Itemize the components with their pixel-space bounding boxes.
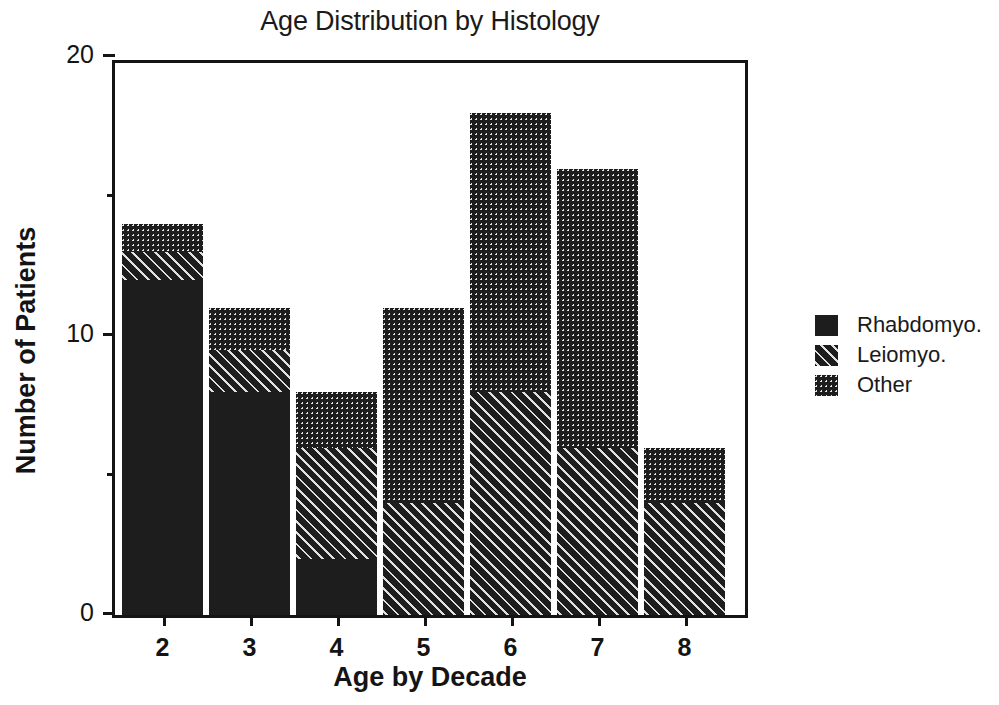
legend-item-label: Leiomyo.	[857, 344, 946, 366]
y-axis-tick: 0	[103, 612, 115, 615]
x-axis-tick-label: 4	[317, 635, 357, 660]
bar-segment	[644, 448, 725, 504]
chart-figure: Age Distribution by Histology Number of …	[0, 0, 999, 705]
bar-segment	[383, 503, 464, 615]
x-axis-tick	[685, 615, 688, 626]
bar-segment	[557, 169, 638, 448]
x-axis-tick	[598, 615, 601, 626]
bar-segment	[383, 308, 464, 503]
bar-segment	[644, 503, 725, 615]
bar-segment	[470, 113, 551, 392]
x-axis-tick-label: 8	[665, 635, 705, 660]
legend-item: Leiomyo.	[815, 340, 995, 370]
bar-group	[296, 392, 377, 615]
y-axis-tick: 10	[103, 333, 115, 336]
bar-segment	[296, 559, 377, 615]
x-axis-tick-label: 3	[230, 635, 270, 660]
y-axis-tick-label: 10	[66, 321, 94, 346]
bar-segment	[122, 224, 203, 252]
bar-group	[557, 169, 638, 615]
bar-segment	[557, 448, 638, 615]
bar-group	[209, 308, 290, 615]
bar-group	[644, 448, 725, 615]
bar-segment	[122, 252, 203, 280]
bar-segment	[296, 448, 377, 560]
x-axis-tick-label: 6	[491, 635, 531, 660]
legend-swatch-solid	[815, 315, 838, 336]
bar-group	[470, 113, 551, 615]
plot-area: 01020 2345678	[112, 60, 748, 618]
x-axis-title: Age by Decade	[112, 662, 748, 693]
bar-segment	[470, 392, 551, 615]
legend-swatch-dots	[815, 375, 838, 396]
y-axis-title: Number of Patients	[11, 186, 42, 516]
x-axis-tick	[424, 615, 427, 626]
legend-item: Other	[815, 370, 995, 400]
chart-legend: Rhabdomyo.Leiomyo.Other	[815, 310, 995, 400]
bar-series-container	[115, 63, 745, 615]
legend-swatch-hatch	[815, 345, 838, 366]
legend-item-label: Other	[857, 374, 912, 396]
x-axis-tick-label: 7	[578, 635, 618, 660]
bar-group	[383, 308, 464, 615]
y-axis-minor-tick	[107, 473, 115, 476]
x-axis-tick	[163, 615, 166, 626]
y-axis-minor-tick	[107, 194, 115, 197]
y-axis-tick-label: 20	[66, 42, 94, 67]
chart-title: Age Distribution by Histology	[112, 6, 748, 37]
bar-segment	[296, 392, 377, 448]
x-axis-tick	[337, 615, 340, 626]
bar-segment	[209, 350, 290, 392]
y-axis-tick: 20	[103, 54, 115, 57]
x-axis-tick-label: 2	[143, 635, 183, 660]
bar-segment	[209, 392, 290, 615]
legend-item-label: Rhabdomyo.	[857, 314, 982, 336]
y-axis-tick-label: 0	[80, 600, 94, 625]
bar-segment	[209, 308, 290, 350]
x-axis-tick-label: 5	[404, 635, 444, 660]
x-axis-tick	[250, 615, 253, 626]
x-axis-tick	[511, 615, 514, 626]
legend-item: Rhabdomyo.	[815, 310, 995, 340]
bar-segment	[122, 280, 203, 615]
bar-group	[122, 224, 203, 615]
